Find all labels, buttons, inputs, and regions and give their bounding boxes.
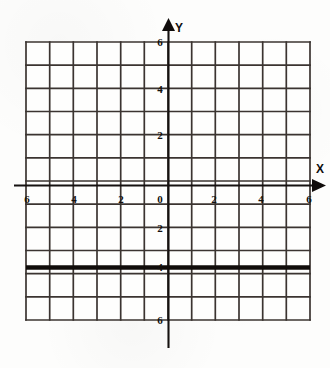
- y-tick-label-pos4: 4: [157, 84, 163, 95]
- x-tick-label-pos2: 2: [211, 194, 217, 205]
- grid-canvas: [0, 0, 330, 368]
- x-axis-name: X: [316, 163, 324, 175]
- x-tick-label-neg4: 4: [71, 194, 77, 205]
- y-tick-label-pos6: 6: [157, 37, 163, 48]
- x-tick-label-zero: 0: [157, 194, 163, 205]
- y-tick-label-pos2: 2: [157, 130, 163, 141]
- y-axis-name: Y: [175, 22, 183, 34]
- y-tick-label-neg6: 6: [157, 315, 163, 326]
- x-tick-label-neg2: 2: [118, 194, 124, 205]
- x-tick-label-neg6: 6: [24, 194, 30, 205]
- y-tick-label-neg2: 2: [157, 223, 163, 234]
- y-axis-arrowhead: [162, 18, 175, 31]
- y-tick-label-neg4: 4: [157, 262, 163, 273]
- coordinate-grid-figure: 6 4 2 0 2 4 6 6 4 2 2 4 6 Y X: [0, 0, 330, 368]
- x-tick-label-pos6: 6: [306, 194, 312, 205]
- x-axis-arrowhead: [312, 179, 326, 192]
- x-tick-label-pos4: 4: [258, 194, 264, 205]
